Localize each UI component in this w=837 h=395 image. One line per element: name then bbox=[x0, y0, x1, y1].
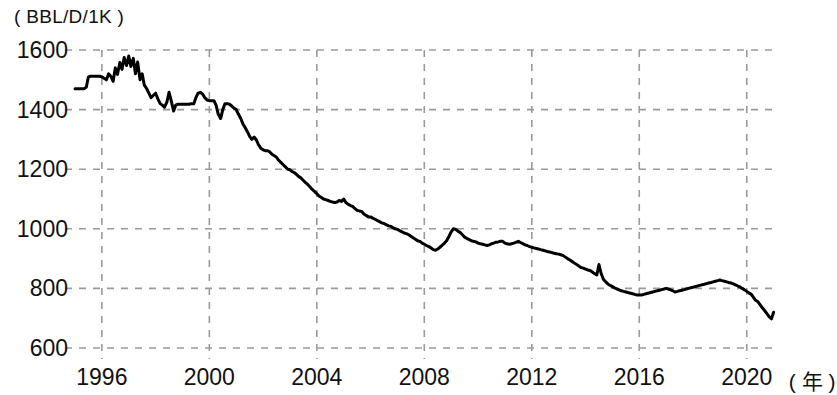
y-axis-tick-label: 600 bbox=[0, 335, 68, 362]
y-axis-tick-label: 800 bbox=[0, 275, 68, 302]
y-axis-tick-label: 1600 bbox=[0, 37, 68, 64]
x-axis-tick-label: 2000 bbox=[164, 364, 254, 391]
x-axis-tick-label: 2008 bbox=[379, 364, 469, 391]
x-axis-tick-label: 2004 bbox=[272, 364, 362, 391]
y-axis-tick-label: 1000 bbox=[0, 215, 68, 242]
x-axis-tick-label: 2012 bbox=[487, 364, 577, 391]
x-axis-tick-label: 2016 bbox=[594, 364, 684, 391]
y-axis-tick-label: 1400 bbox=[0, 96, 68, 123]
x-axis-tick-label: 1996 bbox=[57, 364, 147, 391]
x-axis-unit-label: ( 年 ) bbox=[789, 365, 836, 395]
y-axis-tick-label: 1200 bbox=[0, 156, 68, 183]
gridlines bbox=[65, 50, 779, 359]
x-axis-tick-label: 2020 bbox=[702, 364, 792, 391]
